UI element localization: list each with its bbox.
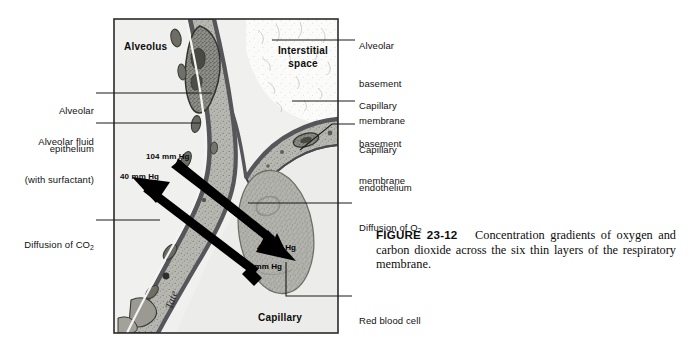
figure-page: Tate Alveolus Interstitial space <box>0 0 689 349</box>
callout-capillary-basement-membrane-line1: Capillary <box>359 100 405 113</box>
callout-alveolar-fluid-line1: Alveolar fluid <box>0 136 94 149</box>
pressure-label-blood-o2: 40 mm Hg <box>257 243 296 252</box>
pressure-label-alveolar-o2: 104 mm Hg <box>146 152 190 161</box>
callout-red-blood-cell: Red blood cell <box>359 290 421 349</box>
callout-alveolar-fluid-line2: (with surfactant) <box>0 174 94 187</box>
figure-number: FIGURE 23-12 <box>376 228 475 241</box>
label-capillary: Capillary <box>258 312 302 324</box>
callout-alveolar-fluid: Alveolar fluid (with surfactant) <box>0 111 94 211</box>
label-alveolus: Alveolus <box>124 41 167 53</box>
label-interstitial-space-line2: space <box>272 58 334 70</box>
figure-caption: FIGURE 23-12Concentration gradients of o… <box>376 228 676 272</box>
callout-red-blood-cell-line1: Red blood cell <box>359 315 421 328</box>
pressure-label-blood-co2: 45 mm Hg <box>243 262 282 271</box>
callout-diffusion-co2-text: Diffusion of CO <box>24 239 90 250</box>
respiratory-membrane-illustration: Tate <box>0 0 689 349</box>
callout-diffusion-co2-subscript: 2 <box>90 244 94 251</box>
pressure-label-alveolar-co2: 40 mm Hg <box>120 172 159 181</box>
callout-alveolar-basement-membrane-line1: Alveolar <box>359 40 405 53</box>
callout-diffusion-co2-line1: Diffusion of CO2 <box>0 239 94 254</box>
callout-capillary-endothelium-line2: endothelium <box>359 182 412 195</box>
callout-diffusion-co2: Diffusion of CO2 <box>0 214 94 279</box>
callout-capillary-endothelium-line1: Capillary <box>359 144 412 157</box>
label-interstitial-space-line1: Interstitial <box>272 45 334 57</box>
